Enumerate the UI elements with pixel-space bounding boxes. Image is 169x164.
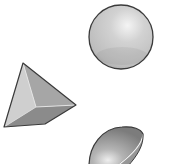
hemisphere	[89, 127, 143, 164]
pyramid	[4, 63, 76, 127]
shapes-canvas	[0, 0, 169, 164]
sphere	[89, 5, 153, 69]
